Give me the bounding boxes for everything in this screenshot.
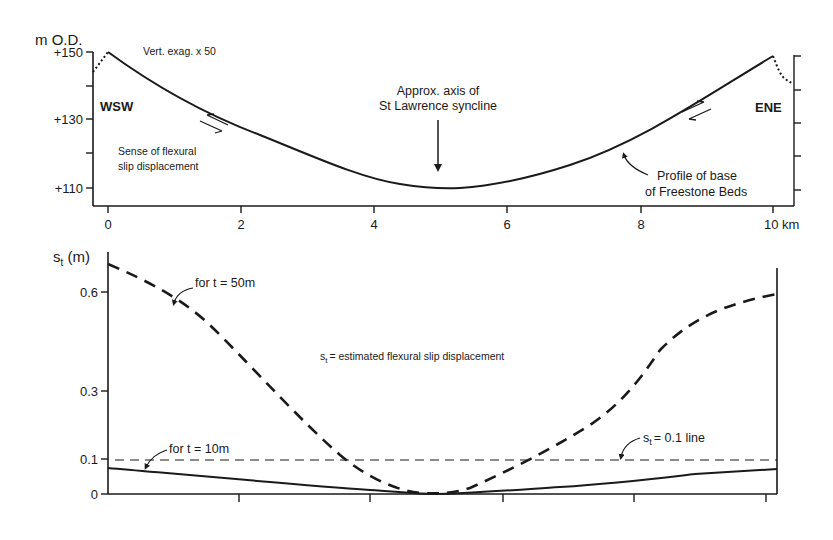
xtick-2: 2	[237, 217, 244, 232]
profile-label-line1: Profile of base	[657, 169, 737, 183]
xtick-0: 0	[104, 217, 111, 232]
east-dotted-extrapolation	[773, 56, 792, 83]
freestone-profile-curve	[108, 52, 773, 188]
t50-pointer-arrow-icon	[174, 288, 193, 303]
xtick-4: 4	[370, 217, 377, 232]
ref-line-pointer-arrow-icon	[621, 438, 640, 457]
bottom-ytick-0.3: 0.3	[80, 384, 98, 399]
bottom-ytick-0.1: 0.1	[80, 452, 98, 467]
bottom-x-ticks	[239, 494, 766, 502]
ene-label: ENE	[755, 100, 782, 115]
syncline-label-line2: St Lawrence syncline	[379, 99, 497, 113]
top-bottom-ticks	[108, 206, 773, 213]
wsw-label: WSW	[100, 99, 134, 114]
bottom-left-ticks	[101, 292, 108, 494]
sense-label-line2: slip displacement	[118, 160, 199, 172]
west-slip-arrows	[200, 114, 228, 133]
syncline-label-line1: Approx. axis of	[397, 84, 480, 98]
st-definition-label: st= estimated flexural slip displacement	[320, 350, 504, 365]
xtick-8: 8	[637, 217, 644, 232]
vert-exag-label: Vert. exag. x 50	[143, 45, 216, 57]
t50-label: for t = 50m	[195, 276, 255, 290]
profile-pointer-arrow-icon	[624, 155, 648, 175]
t10-label: for t = 10m	[169, 442, 229, 456]
xtick-10km: 10 km	[764, 217, 799, 232]
bottom-ytick-0: 0	[91, 487, 98, 502]
ref-line-label: st= 0.1 line	[643, 431, 705, 447]
figure-canvas: m O.D.	[0, 0, 833, 540]
bottom-chart: st (m) 0.6 0.3 0.1 0	[53, 248, 777, 502]
top-chart: m O.D.	[35, 31, 801, 232]
top-left-ticks	[86, 52, 93, 188]
west-dotted-extrapolation	[93, 52, 108, 72]
top-right-ticks	[794, 56, 801, 190]
top-ytick-130: +130	[54, 112, 83, 127]
profile-label-line2: of Freestone Beds	[645, 185, 747, 199]
bottom-y-unit-label: st (m)	[53, 248, 90, 268]
xtick-6: 6	[503, 217, 510, 232]
sense-label-line1: Sense of flexural	[118, 145, 196, 157]
t10-solid-curve	[108, 468, 777, 494]
t10-pointer-arrow-icon	[146, 450, 167, 467]
top-ytick-110: +110	[55, 181, 83, 196]
top-ytick-150: +150	[54, 45, 83, 60]
bottom-ytick-0.6: 0.6	[80, 285, 98, 300]
t50-dashed-curve	[108, 264, 777, 493]
